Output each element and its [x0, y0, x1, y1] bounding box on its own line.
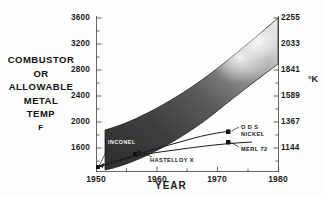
y2-tick-label-1841: 1841 [281, 65, 313, 74]
figure-container: COMBUSTOR OR ALLOWABLE METAL TEMP F 3600… [0, 0, 324, 197]
marker-hastelloy [133, 152, 137, 156]
y-tick-label-2800: 2800 [60, 65, 90, 74]
y2-tick-label-1144: 1144 [281, 143, 313, 152]
marker-merl-72 [226, 140, 231, 145]
x-axis-title: YEAR [155, 180, 187, 191]
y2-axis-title: °K [308, 74, 318, 84]
y2-tick-label-1589: 1589 [281, 91, 313, 100]
hastelloy-x-label: HASTELLOY X [150, 157, 194, 164]
x-tick-label-1980: 1980 [261, 174, 295, 184]
y2-tick-label-2255: 2255 [281, 13, 313, 22]
y-tick-label-1600: 1600 [60, 143, 90, 152]
y-tick-label-2400: 2400 [60, 91, 90, 100]
merl-72-label: MERL 72 [241, 146, 268, 153]
leader-ods [232, 127, 240, 131]
x-tick-label-1970: 1970 [200, 174, 234, 184]
y2-tick-label-2033: 2033 [281, 39, 313, 48]
ods-nickel-label: O D S NICKEL [241, 124, 265, 138]
y-tick-label-3600: 3600 [60, 13, 90, 22]
y-axis-left-ticks [97, 18, 102, 161]
ods-nickel-label-line-2: NICKEL [241, 131, 265, 138]
band-highlight-2 [238, 24, 278, 60]
inconel-label: INCONEL [108, 139, 136, 145]
ods-nickel-label-line-1: O D S [241, 124, 265, 131]
x-axis-ticks [97, 167, 279, 172]
y2-tick-label-1367: 1367 [281, 117, 313, 126]
y-tick-label-2000: 2000 [60, 117, 90, 126]
marker-ods-nickel [226, 130, 231, 135]
y-tick-label-3200: 3200 [60, 39, 90, 48]
x-tick-label-1950: 1950 [79, 174, 113, 184]
